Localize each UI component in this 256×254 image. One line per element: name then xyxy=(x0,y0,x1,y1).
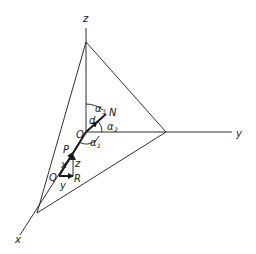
component-x-label: x xyxy=(60,159,67,170)
point-q-label: Q xyxy=(49,172,57,183)
alpha2-arc xyxy=(98,121,102,132)
plane-edge-zy xyxy=(86,42,166,132)
coordinate-diagram: z y x O N P Q R d x z y α 3 α 2 α 1 xyxy=(0,0,256,254)
x-axis-label: x xyxy=(14,234,21,245)
point-n-label: N xyxy=(109,107,117,118)
alpha1-label: α 1 xyxy=(90,137,101,149)
distance-d-label: d xyxy=(89,115,96,126)
svg-text:2: 2 xyxy=(114,126,118,133)
point-p-label: P xyxy=(63,144,70,155)
svg-text:1: 1 xyxy=(97,142,101,149)
y-axis-label: y xyxy=(235,128,243,139)
diagram-canvas: z y x O N P Q R d x z y α 3 α 2 α 1 xyxy=(0,0,256,254)
origin-label: O xyxy=(76,129,84,140)
svg-text:3: 3 xyxy=(102,108,106,115)
point-r-label: R xyxy=(74,173,81,184)
svg-text:α: α xyxy=(90,137,97,148)
alpha3-label: α 3 xyxy=(95,103,106,115)
component-y-label: y xyxy=(59,180,67,191)
svg-text:α: α xyxy=(107,121,114,132)
component-z-label: z xyxy=(74,158,81,169)
svg-text:α: α xyxy=(95,103,102,114)
z-axis-label: z xyxy=(82,13,89,24)
alpha2-label: α 2 xyxy=(107,121,118,133)
